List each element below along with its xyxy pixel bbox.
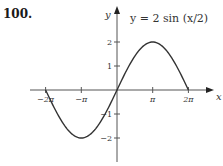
sine-plot: xyy = 2 sin (x/2)−2π−ππ2π21−1−2 <box>0 0 223 166</box>
x-tick-label: 2π <box>182 95 194 104</box>
x-tick-label: π <box>149 95 156 104</box>
x-axis-label: x <box>216 91 222 102</box>
x-axis-arrow-icon <box>206 87 214 93</box>
chart-title: y = 2 sin (x/2) <box>129 12 208 25</box>
y-tick-label: 2 <box>107 38 112 47</box>
y-axis-arrow-icon <box>114 6 120 14</box>
x-tick-label: −π <box>75 95 88 104</box>
y-axis-label: y <box>104 9 111 20</box>
y-tick-label: 1 <box>107 62 112 71</box>
y-tick-label: −2 <box>100 134 112 143</box>
figure: 100. xyy = 2 sin (x/2)−2π−ππ2π21−1−2 <box>0 0 223 166</box>
